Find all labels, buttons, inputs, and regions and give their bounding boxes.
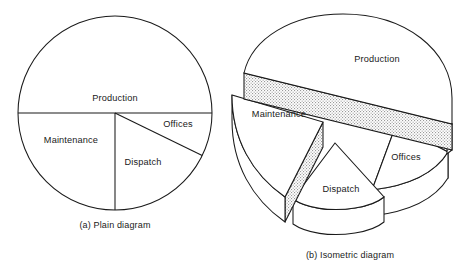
iso-label-production: Production [354, 54, 399, 64]
iso-label-maintenance: Maintenance [252, 109, 306, 119]
pie-diagrams-figure: Production Maintenance Offices Dispatch … [0, 0, 460, 269]
isometric-diagram-panel: Production Maintenance Offices Dispatch … [232, 14, 452, 260]
plain-diagram-panel: Production Maintenance Offices Dispatch … [18, 16, 212, 230]
plain-label-offices: Offices [163, 119, 193, 129]
isometric-diagram-caption: (b) Isometric diagram [306, 250, 394, 260]
iso-label-dispatch: Dispatch [323, 184, 360, 194]
plain-diagram-caption: (a) Plain diagram [79, 220, 150, 230]
plain-label-maintenance: Maintenance [44, 135, 98, 145]
plain-label-production: Production [92, 93, 137, 103]
figure-root: Production Maintenance Offices Dispatch … [0, 0, 460, 269]
plain-label-dispatch: Dispatch [125, 157, 162, 167]
iso-label-offices: Offices [391, 152, 421, 162]
